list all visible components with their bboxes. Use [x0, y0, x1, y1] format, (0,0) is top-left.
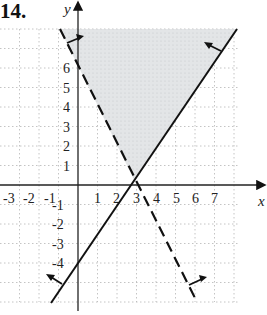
y-axis-label: y: [62, 1, 71, 17]
svg-text:5: 5: [63, 81, 70, 96]
svg-text:6: 6: [192, 191, 199, 206]
svg-text:-2: -2: [23, 191, 35, 206]
svg-text:-4: -4: [52, 256, 64, 271]
svg-text:-3: -3: [52, 237, 64, 252]
svg-text:3: 3: [63, 120, 70, 135]
svg-text:6: 6: [63, 61, 70, 76]
svg-text:5: 5: [173, 191, 180, 206]
dashed-line-shade-arrow-lower: [189, 275, 207, 285]
svg-text:4: 4: [153, 191, 160, 206]
y-tick-labels: 6 5 4 3 2 1 -1 -2 -3 -4: [52, 61, 70, 271]
inequality-graph: x y -3 -2 -1 1 2 3 4 5 6 7 6 5 4 3 2 1 -…: [0, 0, 267, 315]
svg-text:-1: -1: [52, 198, 64, 213]
svg-text:-2: -2: [52, 217, 64, 232]
svg-text:4: 4: [63, 100, 70, 115]
svg-text:3: 3: [133, 191, 140, 206]
shaded-solution-region: [60, 29, 237, 179]
svg-text:2: 2: [63, 139, 70, 154]
x-tick-labels: -3 -2 -1 1 2 3 4 5 6 7: [3, 191, 218, 206]
svg-text:1: 1: [63, 159, 70, 174]
svg-text:1: 1: [94, 191, 101, 206]
svg-text:7: 7: [211, 191, 218, 206]
svg-text:-3: -3: [3, 191, 15, 206]
x-axis-label: x: [257, 193, 265, 209]
